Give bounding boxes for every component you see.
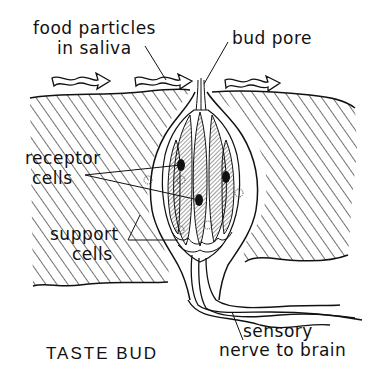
- label-bud-pore: bud pore: [232, 30, 312, 48]
- arrow-icon: [225, 76, 280, 91]
- diagram-title: TASTE BUD: [46, 345, 158, 363]
- arrow-icon: [52, 73, 110, 89]
- label-nerve-to-brain: nerve to brain: [219, 342, 346, 360]
- sensory-nerve: [188, 255, 362, 328]
- label-food-particles: food particles: [33, 20, 156, 38]
- saliva-flow-arrows: [52, 73, 280, 91]
- label-in-saliva: in saliva: [57, 40, 132, 58]
- taste-bud-diagram: food particles in saliva bud pore recept…: [0, 0, 382, 381]
- label-support: support: [50, 226, 119, 244]
- label-receptor: receptor: [25, 150, 101, 168]
- label-receptor-cells: cells: [32, 170, 73, 188]
- label-support-cells: cells: [72, 246, 113, 264]
- label-sensory: sensory: [243, 323, 313, 341]
